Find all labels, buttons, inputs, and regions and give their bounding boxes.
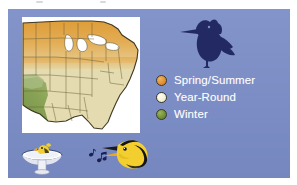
legend-swatch-winter [156,109,167,120]
legend-label-winter: Winter [174,108,208,120]
range-map [22,17,140,133]
legend-swatch-year-round [156,92,167,103]
figure-panel: Spring/Summer Year-Round Winter [8,9,290,178]
legend-swatch-spring-summer [156,75,167,86]
legend-label-spring-summer: Spring/Summer [174,74,255,86]
legend-item-winter: Winter [156,106,288,122]
perched-bird-silhouette-icon [178,16,236,70]
singing-bird-head-illustration [100,137,150,173]
legend-label-year-round: Year-Round [174,91,236,103]
map-legend: Spring/Summer Year-Round Winter [156,72,288,123]
cropped-text-artifact [0,0,297,7]
bird-bath-illustration [18,136,66,176]
legend-item-spring-summer: Spring/Summer [156,72,288,88]
legend-item-year-round: Year-Round [156,89,288,105]
